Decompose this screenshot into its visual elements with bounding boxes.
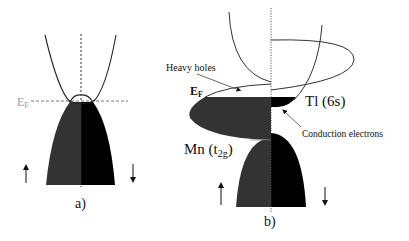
mn-upper-lens xyxy=(189,97,271,140)
heavy-holes-label: Heavy holes xyxy=(166,62,216,73)
panel-a-label: a) xyxy=(75,196,86,212)
fermi-label-b: EF xyxy=(190,84,203,99)
conduction-electrons-label: Conduction electrons xyxy=(302,129,383,139)
tl-conduction-lens xyxy=(271,97,296,107)
tl-label: Tl (6s) xyxy=(305,93,345,110)
ellipse-left xyxy=(205,84,271,97)
conduction-pointer xyxy=(284,111,301,127)
tl-band xyxy=(294,25,322,100)
spin-up-band-a xyxy=(46,102,81,185)
fermi-label-a: EF xyxy=(17,95,29,110)
mn-lower-dome-down xyxy=(271,133,306,207)
band-diagram: EF a) Heavy holes EF xyxy=(0,0,409,241)
panel-a: EF a) xyxy=(17,34,133,212)
ellipse-right xyxy=(271,40,354,90)
heavy-hole-band xyxy=(229,12,271,82)
heavy-holes-pointer xyxy=(197,74,239,90)
mn-t2g-label: Mn (t2g) xyxy=(184,141,233,159)
panel-b: Heavy holes EF Tl (6s) Conduction electr… xyxy=(166,8,383,230)
panel-b-label: b) xyxy=(264,214,276,230)
spin-down-band-a xyxy=(81,102,115,185)
mn-lower-dome-up xyxy=(236,140,271,207)
